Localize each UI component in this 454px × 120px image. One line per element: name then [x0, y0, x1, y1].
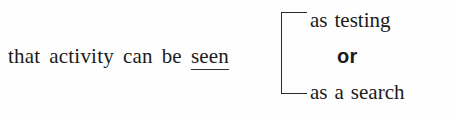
alternative-option-2: asasearch	[310, 80, 404, 104]
lead-word-4: be	[162, 44, 182, 68]
alternative-option-1: astesting	[310, 8, 391, 32]
option2-word-1: as	[310, 80, 328, 104]
lead-word-3: can	[123, 44, 153, 68]
left-square-bracket-icon	[281, 12, 307, 94]
emphasized-word-seen: seen	[191, 44, 229, 70]
alternatives-group: astesting or asasearch	[310, 4, 454, 108]
lead-word-1: that	[8, 44, 40, 68]
option2-word-3: search	[351, 80, 405, 104]
lead-phrase: thatactivitycanbeseen	[8, 43, 229, 69]
option2-word-2: a	[335, 80, 344, 104]
lead-word-2: activity	[49, 44, 114, 68]
option1-word-2: testing	[335, 8, 391, 32]
alternatives-conjunction: or	[337, 44, 358, 68]
option1-word-1: as	[310, 8, 328, 32]
figure-container: thatactivitycanbeseen astesting or asase…	[0, 0, 454, 120]
